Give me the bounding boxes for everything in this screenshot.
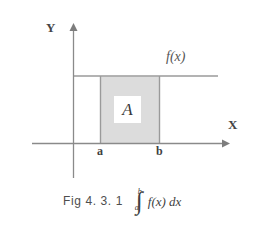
x-axis-arrowhead (222, 140, 230, 148)
x-axis-label: X (228, 118, 237, 131)
integral-upper-limit: b (138, 187, 142, 196)
y-axis-arrowhead (70, 23, 78, 31)
integrand: f(x) (148, 194, 166, 210)
integral-expression: ∫ b a f(x) dx (136, 189, 181, 210)
area-label: A (122, 101, 132, 118)
function-curve-label: f(x) (166, 50, 185, 64)
integral-figure: Y X f(x) a b A Fig 4. 3. 1 ∫ b a f(x) dx (0, 0, 260, 229)
figure-caption: Fig 4. 3. 1 ∫ b a f(x) dx (63, 189, 181, 210)
caption-text: Fig 4. 3. 1 (63, 194, 123, 210)
tick-label-a: a (97, 145, 103, 157)
y-axis-label: Y (46, 21, 55, 34)
area-label-box: A (114, 96, 141, 123)
differential: dx (169, 194, 181, 210)
tick-label-b: b (156, 145, 163, 157)
integral-lower-limit: a (135, 203, 139, 212)
